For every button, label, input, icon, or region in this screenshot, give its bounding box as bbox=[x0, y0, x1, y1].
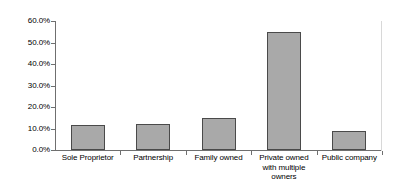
x-axis-category-label-line: Private owned bbox=[251, 153, 316, 163]
x-axis-category-label-line: with multiple bbox=[251, 163, 316, 173]
x-axis-tick-mark bbox=[186, 151, 187, 155]
y-axis-tick-mark bbox=[51, 107, 55, 108]
x-axis-category-label-line: Sole Proprietor bbox=[55, 153, 120, 163]
x-axis-tick-mark bbox=[251, 151, 252, 155]
y-axis-tick-mark bbox=[51, 129, 55, 130]
bar-chart: 0.0%10.0%20.0%30.0%40.0%50.0%60.0% Sole … bbox=[0, 0, 396, 185]
bar bbox=[136, 124, 170, 150]
x-axis-category-label: Family owned bbox=[186, 153, 251, 163]
bar bbox=[71, 125, 105, 150]
x-axis-category-label: Partnership bbox=[120, 153, 185, 163]
y-axis-tick-mark bbox=[51, 64, 55, 65]
x-axis-tick-mark bbox=[120, 151, 121, 155]
y-axis-tick-mark bbox=[51, 86, 55, 87]
bar bbox=[202, 118, 236, 150]
x-axis-category-label-line: Partnership bbox=[120, 153, 185, 163]
y-axis-tick-mark bbox=[51, 21, 55, 22]
y-axis-tick-mark bbox=[51, 150, 55, 151]
x-axis-category-label: Sole Proprietor bbox=[55, 153, 120, 163]
bar bbox=[332, 131, 366, 150]
x-axis-category-label: Private ownedwith multipleowners bbox=[251, 153, 316, 182]
bar bbox=[267, 32, 301, 150]
x-axis-category-labels: Sole ProprietorPartnershipFamily ownedPr… bbox=[55, 153, 382, 185]
x-axis-category-label-line: Family owned bbox=[186, 153, 251, 163]
x-axis-category-label: Public company bbox=[317, 153, 382, 163]
x-axis-category-label-line: owners bbox=[251, 172, 316, 182]
y-axis-tick-mark bbox=[51, 43, 55, 44]
x-axis-category-label-line: Public company bbox=[317, 153, 382, 163]
x-axis-tick-mark bbox=[317, 151, 318, 155]
x-axis-tick-mark bbox=[382, 151, 383, 155]
